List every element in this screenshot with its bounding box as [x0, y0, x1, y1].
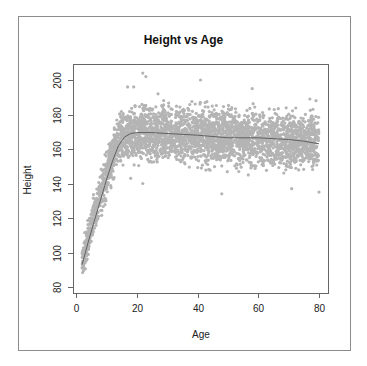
x-axis: 020406080 — [74, 293, 326, 314]
x-tick-label: 20 — [132, 303, 144, 314]
y-tick-label: 80 — [52, 282, 63, 294]
y-tick-label: 160 — [52, 141, 63, 158]
x-tick-label: 80 — [314, 303, 326, 314]
y-axis: 80100120140160180200 — [52, 72, 73, 293]
y-tick-label: 140 — [52, 176, 63, 193]
scatter-points — [81, 72, 321, 275]
y-tick-label: 120 — [52, 210, 63, 227]
x-tick-label: 60 — [253, 303, 265, 314]
x-tick-label: 40 — [193, 303, 205, 314]
chart-figure: Height vs Age Age Height 020406080 80100… — [0, 0, 367, 366]
y-tick-label: 200 — [52, 72, 63, 89]
y-tick-label: 100 — [52, 245, 63, 262]
x-tick-label: 0 — [74, 303, 80, 314]
plot-area: 020406080 80100120140160180200 — [0, 0, 367, 366]
y-tick-label: 180 — [52, 107, 63, 124]
